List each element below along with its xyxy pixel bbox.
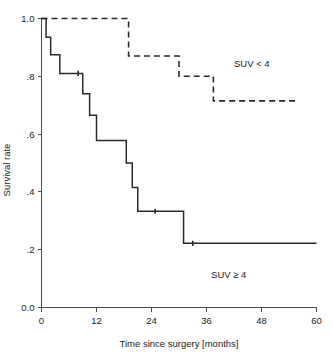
x-tick-label: 24 — [146, 315, 157, 326]
y-tick-label: 0.0 — [21, 302, 34, 313]
y-tick-label: .4 — [27, 186, 35, 197]
survival-chart-figure: 0.0.2.4.6.81.0 01224364860 SUV < 4SUV ≥ … — [0, 0, 333, 354]
x-tick-label: 12 — [91, 315, 102, 326]
x-tick-label: 60 — [311, 315, 322, 326]
series-annotations: SUV < 4SUV ≥ 4 — [211, 58, 270, 280]
plot-canvas: 0.0.2.4.6.81.0 01224364860 SUV < 4SUV ≥ … — [0, 0, 333, 354]
y-axis-ticks: 0.0.2.4.6.81.0 — [21, 13, 41, 313]
survival-curve-suv-high — [42, 19, 317, 244]
survival-curves — [42, 19, 317, 244]
y-tick-label: 1.0 — [21, 13, 34, 24]
y-axis-title: Survival rate — [1, 144, 12, 197]
series-label-suv-low: SUV < 4 — [234, 58, 270, 69]
x-axis-title: Time since surgery [months] — [120, 338, 239, 349]
x-tick-label: 48 — [256, 315, 267, 326]
series-label-suv-high: SUV ≥ 4 — [211, 269, 246, 280]
y-tick-label: .2 — [27, 244, 35, 255]
x-tick-label: 36 — [201, 315, 212, 326]
censoring-marks — [78, 71, 193, 246]
y-tick-label: .6 — [27, 129, 35, 140]
y-tick-label: .8 — [27, 71, 35, 82]
x-tick-label: 0 — [39, 315, 44, 326]
x-axis-ticks: 01224364860 — [39, 308, 322, 326]
